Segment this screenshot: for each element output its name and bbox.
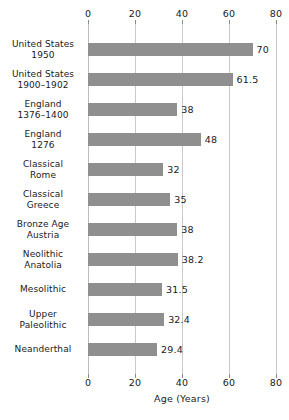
bar xyxy=(88,193,170,206)
x-tick-mark-20 xyxy=(135,374,136,378)
category-label-line2: 1376–1400 xyxy=(4,110,82,121)
bar-value-label: 70 xyxy=(257,43,270,56)
bar xyxy=(88,253,178,266)
bar-value-label: 38 xyxy=(181,103,194,116)
bar-value-label: 38.2 xyxy=(182,253,204,266)
x-tick-mark-40 xyxy=(182,374,183,378)
category-label-line1: Bronze Age xyxy=(4,219,82,230)
x-tick-mark-80 xyxy=(276,20,277,24)
category-label-line1: United States xyxy=(4,69,82,80)
x-tick-mark-60 xyxy=(229,20,230,24)
x-tick-mark-0 xyxy=(88,374,89,378)
category-label-line1: England xyxy=(4,129,82,140)
x-tick-label-80: 80 xyxy=(261,8,289,19)
bar xyxy=(88,43,253,56)
bar-value-label: 48 xyxy=(205,133,218,146)
bar xyxy=(88,133,201,146)
x-tick-mark-60 xyxy=(229,374,230,378)
x-tick-label-0: 0 xyxy=(73,8,103,19)
x-tick-label-40: 40 xyxy=(167,8,197,19)
category-label-line1: United States xyxy=(4,39,82,50)
category-label: England1376–1400 xyxy=(4,99,82,121)
x-tick-label-20: 20 xyxy=(120,377,150,388)
category-label-line1: Upper xyxy=(4,309,82,320)
bar xyxy=(88,73,233,86)
category-label: Neanderthal xyxy=(4,344,82,355)
category-label: Mesolithic xyxy=(4,284,82,295)
x-tick-mark-80 xyxy=(276,374,277,378)
bar-value-label: 35 xyxy=(174,193,187,206)
category-label: ClassicalRome xyxy=(4,159,82,181)
bar-chart: 00202040406060808070United States195061.… xyxy=(0,0,289,420)
category-label-line1: Neolithic xyxy=(4,249,82,260)
bar xyxy=(88,343,157,356)
category-label-line2: Paleolithic xyxy=(4,320,82,331)
category-label-line2: Austria xyxy=(4,230,82,241)
x-tick-label-80: 80 xyxy=(261,377,289,388)
x-axis-title: Age (Years) xyxy=(88,393,276,404)
bar-value-label: 29.4 xyxy=(161,343,183,356)
category-label-line2: Greece xyxy=(4,200,82,211)
category-label-line1: Classical xyxy=(4,189,82,200)
category-label-line2: Anatolia xyxy=(4,260,82,271)
x-tick-label-60: 60 xyxy=(214,8,244,19)
x-tick-mark-0 xyxy=(88,20,89,24)
category-label-line1: Mesolithic xyxy=(4,284,82,295)
category-label-line2: Rome xyxy=(4,170,82,181)
category-label: England1276 xyxy=(4,129,82,151)
x-tick-mark-20 xyxy=(135,20,136,24)
bar xyxy=(88,103,177,116)
bar-value-label: 32 xyxy=(167,163,180,176)
category-label-line2: 1950 xyxy=(4,50,82,61)
category-label: ClassicalGreece xyxy=(4,189,82,211)
category-label-line1: England xyxy=(4,99,82,110)
x-tick-label-60: 60 xyxy=(214,377,244,388)
bar xyxy=(88,283,162,296)
category-label: NeolithicAnatolia xyxy=(4,249,82,271)
category-label: UpperPaleolithic xyxy=(4,309,82,331)
category-label: United States1900–1902 xyxy=(4,69,82,91)
bar-value-label: 61.5 xyxy=(237,73,259,86)
x-tick-label-20: 20 xyxy=(120,8,150,19)
bar-value-label: 32.4 xyxy=(168,313,190,326)
bar-value-label: 38 xyxy=(181,223,194,236)
x-tick-label-40: 40 xyxy=(167,377,197,388)
bar xyxy=(88,163,163,176)
category-label-line2: 1276 xyxy=(4,140,82,151)
x-tick-label-0: 0 xyxy=(73,377,103,388)
bar-value-label: 31.5 xyxy=(166,283,188,296)
category-label: United States1950 xyxy=(4,39,82,61)
category-label-line2: 1900–1902 xyxy=(4,80,82,91)
x-tick-mark-40 xyxy=(182,20,183,24)
category-label: Bronze AgeAustria xyxy=(4,219,82,241)
gridline-80 xyxy=(276,22,277,374)
category-label-line1: Classical xyxy=(4,159,82,170)
category-label-line1: Neanderthal xyxy=(4,344,82,355)
bar xyxy=(88,223,177,236)
bar xyxy=(88,313,164,326)
